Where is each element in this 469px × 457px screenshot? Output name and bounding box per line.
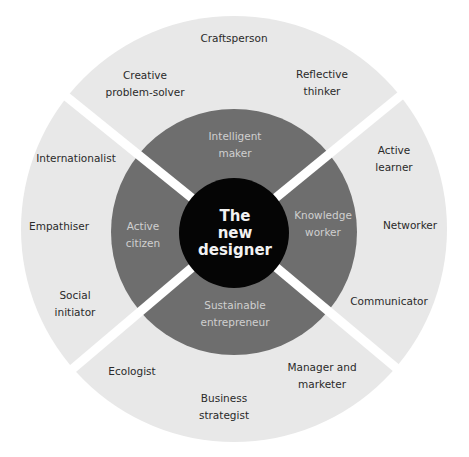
outer-label-internationalist: Internationalist [36, 150, 116, 167]
outer-label-creative-problem-solver: Creative problem-solver [105, 67, 184, 101]
outer-label-manager-and-marketer: Manager and marketer [287, 359, 356, 393]
middle-label-sustainable-entrepreneur: Sustainable entrepreneur [200, 297, 269, 331]
outer-label-communicator: Communicator [350, 293, 428, 310]
outer-label-empathiser: Empathiser [29, 218, 89, 235]
outer-label-reflective-thinker: Reflective thinker [296, 66, 348, 100]
outer-label-ecologist: Ecologist [108, 363, 155, 380]
outer-label-craftsperson: Craftsperson [200, 30, 267, 47]
outer-label-active-learner: Active learner [375, 142, 412, 176]
center-label: The new designer [198, 208, 272, 259]
outer-label-networker: Networker [383, 217, 437, 234]
new-designer-diagram: The new designer Intelligent maker Knowl… [0, 0, 469, 457]
middle-label-knowledge-worker: Knowledge worker [294, 207, 352, 241]
outer-label-social-initiator: Social initiator [55, 287, 96, 321]
middle-label-active-citizen: Active citizen [126, 218, 160, 252]
middle-label-intelligent-maker: Intelligent maker [209, 128, 262, 162]
outer-label-business-strategist: Business strategist [199, 390, 249, 424]
